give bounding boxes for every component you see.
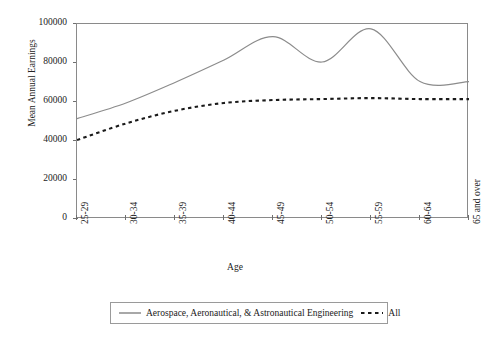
x-axis-title: Age [200,262,270,272]
legend-swatch-solid-icon [119,309,141,317]
y-tick-label: 40000 [43,135,67,145]
x-tick-label: 55-59 [374,202,384,224]
x-tick-mark [174,215,175,220]
series-line-all [77,98,469,140]
legend-item-aerospace: Aerospace, Aeronautical, & Astronautical… [111,308,353,318]
x-tick-label: 65 and over [472,179,482,224]
chart-figure: 020000400006000080000100000 25-2930-3435… [0,0,494,342]
x-tick-mark [125,215,126,220]
series-line-aerospace [77,29,469,119]
plot-area [76,23,468,218]
y-axis-title: Mean Annual Earnings [27,23,37,143]
x-tick-label: 60-64 [423,202,433,224]
x-tick-mark [223,215,224,220]
x-tick-label: 50-54 [325,202,335,224]
x-tick-mark [370,215,371,220]
y-tick-label: 0 [62,213,67,223]
x-tick-mark [468,215,469,220]
x-tick-label: 35-39 [178,202,188,224]
x-tick-mark [272,215,273,220]
legend-swatch-dashed-icon [361,309,383,317]
x-tick-mark [76,215,77,220]
series-lines [77,24,469,219]
legend-label-all: All [388,308,400,318]
x-tick-mark [321,215,322,220]
y-tick-label: 60000 [43,96,67,106]
y-tick-label: 20000 [43,174,67,184]
x-tick-mark [419,215,420,220]
x-tick-label: 40-44 [227,202,237,224]
chart-legend: Aerospace, Aeronautical, & Astronautical… [110,302,388,324]
y-tick-label: 80000 [43,57,67,67]
x-tick-label: 25-29 [80,202,90,224]
legend-label-aerospace: Aerospace, Aeronautical, & Astronautical… [146,308,353,318]
y-tick-label: 100000 [39,18,68,28]
x-tick-label: 30-34 [129,202,139,224]
x-tick-label: 45-49 [276,202,286,224]
legend-item-all: All [353,308,400,318]
